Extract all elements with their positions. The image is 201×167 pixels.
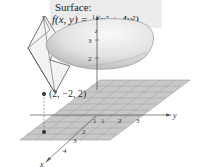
x-tick-3: 3 <box>73 137 77 145</box>
surface-diagram: z 2 3 y 1 2 3 x 1 2 3 4 (2, −2, 2) <box>0 0 201 167</box>
x-tick-1: 1 <box>93 117 97 125</box>
paraboloid-surface <box>46 19 154 70</box>
projected-point <box>42 130 46 134</box>
x-axis-label: x <box>39 160 44 167</box>
point-label: (2, −2, 2) <box>49 88 86 100</box>
y-tick-3: 3 <box>136 117 140 125</box>
surface-point <box>42 92 46 96</box>
x-tick-2: 2 <box>82 128 86 136</box>
x-tick-4: 4 <box>63 147 67 155</box>
z-tick-3: 3 <box>88 37 92 45</box>
y-axis-label: y <box>172 111 177 120</box>
y-tick-2: 2 <box>118 117 122 125</box>
y-tick-1: 1 <box>101 117 105 125</box>
z-tick-2: 2 <box>88 55 92 63</box>
